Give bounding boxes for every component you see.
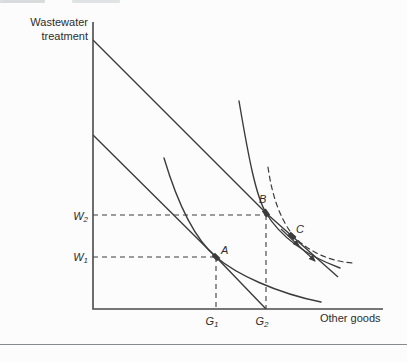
indifference-curve-dashed (268, 167, 354, 263)
figure-container: WastewatertreatmentOther goodsABCW2W1G1G… (0, 0, 407, 362)
scan-artifact-mark (72, 0, 120, 3)
tick-label-subscript: 2 (83, 215, 89, 224)
y-axis-title-line-2: treatment (42, 30, 88, 42)
tick-label-g1: G1 (205, 315, 218, 329)
point-label-b: B (259, 193, 266, 205)
guide-lines (93, 215, 266, 309)
labels: WastewatertreatmentOther goodsABCW2W1G1G… (30, 16, 381, 329)
y-axis-title-line-1: Wastewater (30, 16, 88, 28)
axis-lines (93, 22, 383, 309)
axes (93, 22, 383, 309)
tick-label-subscript: 1 (214, 320, 218, 329)
budget-line-outer (93, 40, 338, 277)
diagram-svg: WastewatertreatmentOther goodsABCW2W1G1G… (0, 0, 407, 362)
page-separator-rule (0, 344, 407, 345)
tick-label-subscript: 1 (84, 256, 88, 265)
tick-label-subscript: 2 (263, 320, 269, 329)
indifference-curve-2 (239, 101, 340, 268)
tick-label-w1: W1 (73, 251, 88, 265)
tick-label-g2: G2 (255, 315, 269, 329)
budget-line-inner (93, 135, 266, 309)
x-axis-title: Other goods (320, 312, 381, 324)
tick-label-w2: W2 (73, 210, 88, 224)
point-label-a: A (220, 244, 228, 256)
scan-artifact-mark (0, 0, 45, 3)
point-label-c: C (296, 223, 304, 235)
